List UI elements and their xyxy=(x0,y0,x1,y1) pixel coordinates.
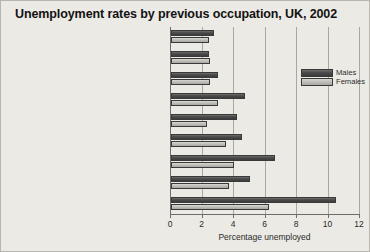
legend-entry: Females xyxy=(301,78,367,86)
legend-entry: Males xyxy=(301,69,367,77)
gridline xyxy=(233,27,234,214)
x-tick-mark xyxy=(233,214,234,218)
gridline xyxy=(296,27,297,214)
bar-males xyxy=(171,134,242,140)
x-axis-title: Percentage unemployed xyxy=(170,232,359,242)
legend-label: Females xyxy=(336,77,365,86)
legend-swatch-males xyxy=(301,69,333,77)
x-tick-mark xyxy=(170,214,171,218)
bar-females xyxy=(171,162,234,168)
bar-females xyxy=(171,121,207,127)
x-tick-mark xyxy=(202,214,203,218)
x-tick-mark xyxy=(328,214,329,218)
chart-legend: MalesFemales xyxy=(301,69,367,89)
plot-area: 024681012 xyxy=(170,27,359,214)
x-tick-label: 0 xyxy=(168,219,173,229)
bar-males xyxy=(171,155,275,161)
gridline xyxy=(359,27,360,214)
bar-males xyxy=(171,93,245,99)
bar-males xyxy=(171,176,250,182)
bar-females xyxy=(171,204,269,210)
x-tick-mark xyxy=(296,214,297,218)
legend-label: Males xyxy=(336,68,356,77)
bar-males xyxy=(171,197,336,203)
x-tick-label: 6 xyxy=(262,219,267,229)
bar-females xyxy=(171,100,218,106)
x-tick-label: 12 xyxy=(354,219,363,229)
bar-males xyxy=(171,30,214,36)
x-tick-mark xyxy=(265,214,266,218)
gridline xyxy=(265,27,266,214)
bar-females xyxy=(171,141,226,147)
bar-males xyxy=(171,114,237,120)
bar-females xyxy=(171,79,210,85)
bar-males xyxy=(171,72,218,78)
gridline xyxy=(328,27,329,214)
chart-title: Unemployment rates by previous occupatio… xyxy=(15,7,337,21)
bar-females xyxy=(171,37,209,43)
bar-males xyxy=(171,51,209,57)
x-tick-label: 8 xyxy=(294,219,299,229)
bar-females xyxy=(171,58,210,64)
chart-figure: Unemployment rates by previous occupatio… xyxy=(0,0,370,252)
y-axis-line xyxy=(170,27,171,214)
x-tick-label: 2 xyxy=(199,219,204,229)
x-tick-label: 4 xyxy=(231,219,236,229)
bar-females xyxy=(171,183,229,189)
x-tick-mark xyxy=(359,214,360,218)
legend-swatch-females xyxy=(301,78,333,86)
x-tick-label: 10 xyxy=(323,219,332,229)
